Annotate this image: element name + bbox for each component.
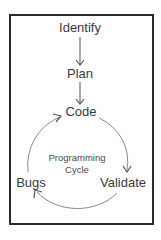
node-identify: Identify <box>59 21 101 35</box>
cycle-label-line2: Cycle <box>48 164 105 176</box>
arrow-plan-to-code <box>76 82 84 104</box>
cycle-label: Programming Cycle <box>48 152 105 176</box>
node-bugs: Bugs <box>16 176 46 190</box>
cycle-label-line1: Programming <box>48 152 105 164</box>
arc-validate-to-bugs <box>34 190 117 209</box>
arrow-identify-to-plan <box>76 37 84 65</box>
node-plan: Plan <box>67 67 93 81</box>
node-validate: Validate <box>100 176 146 190</box>
node-code: Code <box>65 105 96 119</box>
